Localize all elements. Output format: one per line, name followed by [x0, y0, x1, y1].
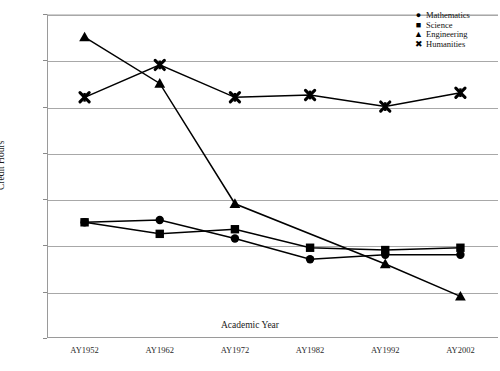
y-axis-tick-mark: [43, 292, 47, 293]
y-axis-tick-mark: [43, 199, 47, 200]
y-axis-tick-mark: [43, 245, 47, 246]
gridline: [48, 61, 498, 62]
gridline: [48, 200, 498, 201]
x-axis-title: Academic Year: [0, 320, 500, 330]
x-axis-tick-label: AY2002: [425, 345, 495, 355]
gridline: [48, 154, 498, 155]
gridline: [48, 108, 498, 109]
y-axis-tick-mark: [43, 60, 47, 61]
x-axis-tick-label: AY1982: [275, 345, 345, 355]
chart-legend: ●Mathematics■Science▲Engineering✖Humanit…: [413, 11, 470, 49]
y-axis-tick-mark: [43, 14, 47, 15]
legend-marker-x-icon: ✖: [413, 40, 424, 50]
y-axis-title: Credit Hours: [0, 141, 6, 190]
x-axis-tick-label: AY1992: [350, 345, 420, 355]
gridline: [48, 293, 498, 294]
y-axis-tick-mark: [43, 153, 47, 154]
x-axis-tick-label: AY1952: [50, 345, 120, 355]
legend-label: Humanities: [426, 40, 465, 50]
gridline: [48, 246, 498, 247]
x-axis-tick-label: AY1972: [200, 345, 270, 355]
line-chart: 010203040506070 Credit Hours Academic Ye…: [0, 0, 500, 371]
y-axis-tick-mark: [43, 107, 47, 108]
plot-area: [47, 14, 498, 338]
y-axis-tick-mark: [43, 338, 47, 339]
legend-item-humanities[interactable]: ✖Humanities: [413, 40, 470, 50]
x-axis-tick-label: AY1962: [125, 345, 195, 355]
